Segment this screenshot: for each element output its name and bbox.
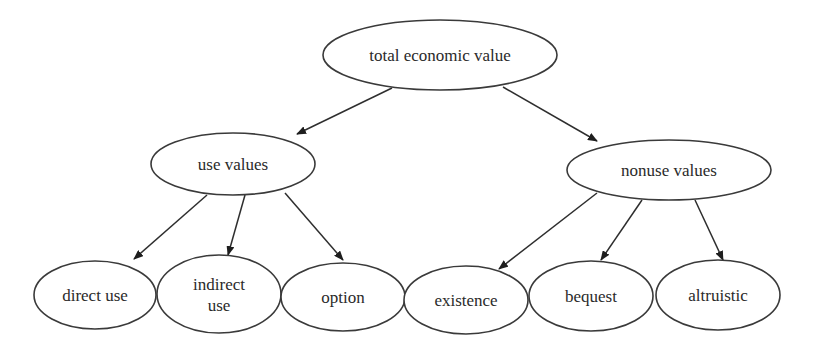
arrow-tev-to-nonuse (503, 87, 597, 141)
arrow-use-to-direct (134, 195, 207, 259)
node-altruistic: altruistic (656, 260, 780, 330)
node-bequest: bequest (529, 261, 653, 331)
node-option: option (281, 263, 405, 331)
nodes-layer: total economic valueuse valuesnonuse val… (34, 20, 780, 334)
arrow-use-to-indirect (228, 195, 245, 255)
node-label: altruistic (688, 286, 748, 305)
node-label: existence (434, 291, 497, 310)
node-indirect: indirectuse (157, 255, 281, 333)
node-nonuse: nonuse values (567, 140, 771, 200)
node-label: use values (198, 155, 268, 174)
arrow-nonuse-to-existence (499, 193, 597, 269)
node-existence: existence (404, 266, 528, 334)
node-use: use values (151, 133, 315, 195)
node-label: bequest (565, 287, 617, 306)
node-ellipse (157, 255, 281, 333)
node-tev: total economic value (323, 20, 557, 90)
arrow-nonuse-to-altruistic (695, 200, 723, 260)
arrow-use-to-option (285, 193, 343, 260)
arrow-tev-to-use (297, 88, 392, 134)
economic-value-tree-diagram: total economic valueuse valuesnonuse val… (0, 0, 814, 346)
node-label: use (208, 296, 231, 315)
node-label: nonuse values (621, 161, 717, 180)
node-label: direct use (62, 286, 128, 305)
node-label: option (321, 288, 365, 307)
node-direct: direct use (34, 261, 156, 329)
arrow-nonuse-to-bequest (601, 200, 642, 260)
node-label: total economic value (369, 46, 511, 65)
node-label: indirect (193, 275, 245, 294)
